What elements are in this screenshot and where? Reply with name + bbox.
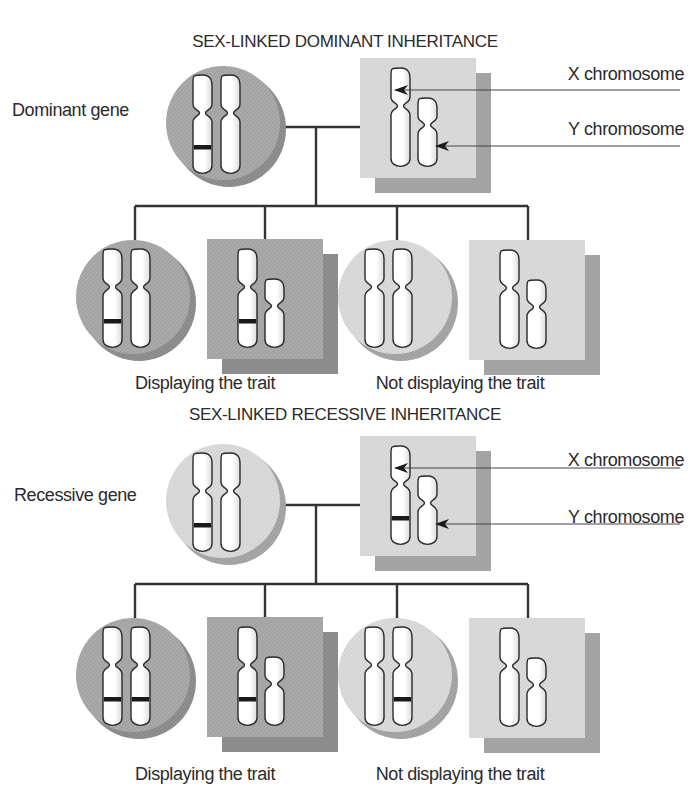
caption-displaying-trait: Displaying the trait	[85, 373, 325, 394]
recessive-pedigree	[76, 436, 680, 753]
section-title: SEX-LINKED DOMINANT INHERITANCE	[0, 32, 690, 52]
y-chromosome	[265, 657, 284, 725]
y-chromosome-label: Y chromosome	[568, 507, 684, 528]
x-chromosome	[193, 453, 212, 551]
x-chromosome	[391, 68, 410, 166]
x-chromosome	[238, 249, 257, 347]
y-chromosome	[418, 98, 437, 166]
daughter-circle	[76, 618, 196, 739]
son-square	[469, 240, 600, 375]
mother-female-circle	[166, 444, 286, 565]
x-chromosome	[500, 628, 519, 726]
section-title: SEX-LINKED RECESSIVE INHERITANCE	[0, 405, 690, 425]
y-chromosome	[527, 658, 546, 726]
x-chromosome	[221, 453, 240, 551]
father-male-square	[360, 58, 491, 193]
daughter-circle	[76, 240, 196, 361]
x-chromosome	[365, 249, 384, 347]
x-chromosome	[103, 249, 122, 347]
x-chromosome-label: X chromosome	[568, 450, 684, 471]
gene-band-icon	[104, 319, 121, 324]
y-chromosome-label: Y chromosome	[568, 119, 684, 140]
gene-label: Dominant gene	[12, 100, 129, 121]
caption-displaying-trait: Displaying the trait	[85, 764, 325, 785]
gene-label: Recessive gene	[14, 485, 136, 506]
x-chromosome	[500, 250, 519, 348]
y-chromosome	[265, 279, 284, 347]
caption-not-displaying-trait: Not displaying the trait	[340, 764, 580, 785]
gene-band-icon	[194, 523, 211, 528]
gene-band-icon	[104, 697, 121, 702]
son-square	[469, 618, 600, 753]
x-chromosome	[103, 627, 122, 725]
y-chromosome	[418, 476, 437, 544]
gene-band-icon	[132, 697, 149, 702]
mother-female-circle	[166, 66, 286, 187]
x-chromosome	[131, 249, 150, 347]
daughter-circle	[338, 240, 458, 361]
son-square	[207, 617, 338, 752]
dominant-pedigree	[76, 58, 680, 375]
x-chromosome	[391, 446, 410, 544]
y-chromosome	[527, 280, 546, 348]
x-chromosome-label: X chromosome	[568, 64, 684, 85]
x-chromosome	[193, 75, 212, 173]
x-chromosome	[393, 249, 412, 347]
son-square	[207, 239, 338, 374]
x-chromosome	[365, 627, 384, 725]
gene-band-icon	[394, 697, 411, 702]
daughter-circle	[338, 618, 458, 739]
gene-band-icon	[239, 319, 256, 324]
x-chromosome	[238, 627, 257, 725]
father-male-square	[360, 436, 491, 571]
caption-not-displaying-trait: Not displaying the trait	[340, 373, 580, 394]
gene-band-icon	[194, 145, 211, 150]
x-chromosome	[393, 627, 412, 725]
gene-band-icon	[239, 697, 256, 702]
x-chromosome	[131, 627, 150, 725]
gene-band-icon	[392, 516, 409, 521]
x-chromosome	[221, 75, 240, 173]
